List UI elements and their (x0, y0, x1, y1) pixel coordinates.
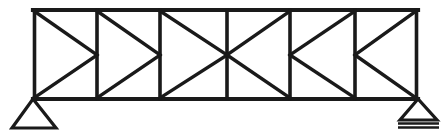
diagonal-panel6-upper (355, 11, 416, 55)
diagonal-panel2-lower (97, 55, 160, 98)
diagonal-panel2-upper (97, 11, 160, 55)
diagonal-web-group (34, 11, 416, 98)
diagonal-panel4-lower (227, 55, 290, 98)
diagonal-panel1-lower (34, 55, 97, 98)
diagonal-panel3-upper (160, 11, 227, 55)
diagonal-panel1-upper (34, 11, 97, 55)
truss-diagram: Line drawing of a six-panel simply suppo… (0, 0, 447, 135)
diagonal-panel5-upper (290, 11, 355, 55)
diagonal-panel6-lower (355, 55, 416, 98)
roller-support-triangle (400, 99, 437, 120)
diagonal-panel5-lower (290, 55, 355, 98)
diagonal-panel3-lower (160, 55, 227, 98)
right-support-roller (398, 99, 439, 128)
pin-support-triangle (12, 99, 56, 128)
truss-canvas (0, 0, 447, 135)
diagonal-panel4-upper (227, 11, 290, 55)
left-support-pin (12, 99, 56, 128)
